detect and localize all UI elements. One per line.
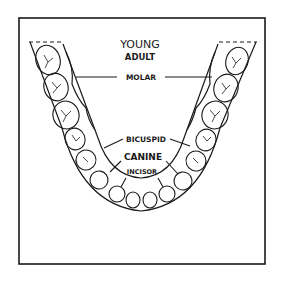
label-canine: CANINE <box>124 152 162 162</box>
label-bicuspid: BICUSPID <box>126 135 166 144</box>
tooth-incisor-right-1 <box>143 192 157 208</box>
dental-arch-diagram: YOUNG ADULT MOLAR BICUSPID CANINE INCISO… <box>0 0 282 284</box>
tooth-incisor-left-1 <box>126 192 140 208</box>
title-line-2: ADULT <box>125 52 156 62</box>
bicuspid-leader-right <box>170 139 190 146</box>
teeth <box>32 42 252 208</box>
incisor-leader-right <box>158 178 163 187</box>
tooth-incisor-left-2 <box>109 186 125 202</box>
tooth-incisor-right-2 <box>159 186 175 202</box>
canine-leader-right <box>166 161 178 174</box>
tooth-molar-right-1 <box>198 98 231 133</box>
tooth-molar-right-3 <box>222 44 252 77</box>
tooth-canine-left <box>86 167 111 192</box>
incisor-leader-left <box>121 178 126 187</box>
tooth-molar-left-1 <box>49 98 82 133</box>
label-molar: MOLAR <box>126 73 156 82</box>
label-incisor: INCISOR <box>127 168 157 176</box>
title-line-1: YOUNG <box>119 38 160 51</box>
bicuspid-leader-left <box>104 139 123 148</box>
